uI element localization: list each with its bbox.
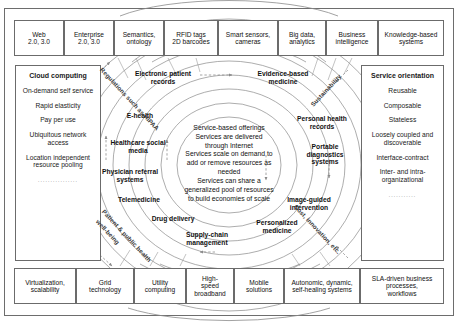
top-row-item-bi[interactable]: Business intelligence xyxy=(326,20,378,56)
arc-label-telemedicine-line1: Telemedicine xyxy=(108,196,170,204)
arc-label-epr-line2: records xyxy=(128,78,198,86)
arc-label-hsm-line1: Healthcare social xyxy=(104,139,172,147)
top-row-item-semantics[interactable]: Semantics, ontology xyxy=(114,20,164,56)
arc-label-phr-line1: Personal health xyxy=(288,115,356,123)
bottom-row-item-virtualization-line1: Virtualization, xyxy=(25,279,64,286)
center-line-6: needed xyxy=(153,168,305,177)
arc-label-ebm-line2: medicine xyxy=(248,78,318,86)
top-row-item-enterprise-line1: Enterprise xyxy=(74,31,104,38)
arc-label-drug-delivery-line1: Drug delivery xyxy=(142,215,204,223)
left-panel-ellipsis: ................ xyxy=(38,177,78,183)
bottom-row-item-sla-line1: SLA-driven business xyxy=(372,275,432,282)
bottom-row-item-grid[interactable]: Grid technology xyxy=(76,268,134,304)
arc-label-epr-line1: Electronic patient xyxy=(128,70,198,78)
arc-label-drug-delivery[interactable]: Drug delivery xyxy=(142,215,204,223)
bottom-row-item-grid-line1: Grid xyxy=(89,279,121,286)
arc-label-hsm-line2: media xyxy=(104,147,172,155)
left-panel-item-pay-per-use: Pay per use xyxy=(20,116,96,124)
left-panel-cloud-computing[interactable]: Cloud computing On-demand self service R… xyxy=(15,65,101,261)
top-row-item-kbs-line1: Knowledge-based xyxy=(385,31,438,38)
bottom-row-item-virtualization[interactable]: Virtualization, scalability xyxy=(14,268,76,304)
top-row-item-kbs[interactable]: Knowledge-based systems xyxy=(378,20,444,56)
right-panel-item-reusable: Reusable xyxy=(366,87,439,95)
left-panel-item-on-demand: On-demand self service xyxy=(20,87,96,95)
arc-label-igi-line2: intervention xyxy=(276,204,342,212)
bottom-row-item-grid-line2: technology xyxy=(89,286,121,293)
arc-label-physician-referral-systems[interactable]: Physician referral systems xyxy=(96,168,164,183)
arc-label-scm-line1: Supply-chain xyxy=(176,231,238,239)
arc-label-prs-line1: Physician referral xyxy=(96,168,164,176)
arc-label-prs-line2: systems xyxy=(96,176,164,184)
right-panel-item-loosely-coupled: Loosely coupled and discoverable xyxy=(366,131,439,146)
right-panel-heading: Service orientation xyxy=(371,72,434,80)
diagram-canvas: Web 2.0, 3.0 Enterprise 2.0, 3.0 Semanti… xyxy=(0,0,459,324)
bottom-row-item-autonomic-line1: Autonomic, dynamic, xyxy=(291,279,352,286)
right-panel-item-composable: Composable xyxy=(366,102,439,110)
center-line-1: Service-based offerings xyxy=(153,124,305,133)
left-panel-heading: Cloud computing xyxy=(29,72,87,80)
center-service-description: Service-based offerings Services are del… xyxy=(153,124,305,203)
arc-label-evidence-based-medicine[interactable]: Evidence-based medicine xyxy=(248,70,318,85)
top-row-item-rfid[interactable]: RFID tags 2D barcodes xyxy=(164,20,218,56)
arc-label-pm-line1: Personalized xyxy=(246,219,308,227)
center-line-5: add or remove resources as xyxy=(153,159,305,168)
arc-label-pds-line2: diagnostics xyxy=(296,151,354,159)
arc-label-pm-line2: medicine xyxy=(246,227,308,235)
right-panel-service-orientation[interactable]: Service orientation Reusable Composable … xyxy=(361,65,444,261)
center-line-3: through Internet xyxy=(153,142,305,151)
top-row-item-bigdata[interactable]: Big data, analytics xyxy=(278,20,326,56)
bottom-row-item-autonomic-line2: self-healing systems xyxy=(291,286,352,293)
bottom-row-item-autonomic[interactable]: Autonomic, dynamic, self-healing systems xyxy=(284,268,360,304)
top-row-item-bigdata-line2: analytics xyxy=(289,38,315,45)
bottom-row-item-utility[interactable]: Utility computing xyxy=(134,268,186,304)
right-panel-ellipsis: ........... xyxy=(389,192,416,198)
bottom-row-item-utility-line1: Utility xyxy=(145,279,175,286)
bottom-row-item-mobile-line1: Mobile xyxy=(246,279,272,286)
top-row-item-bi-line2: intelligence xyxy=(336,38,369,45)
right-panel-item-inter-intra: Inter- and intra-organizational xyxy=(366,168,439,183)
arc-label-healthcare-social-media[interactable]: Healthcare social media xyxy=(104,139,172,154)
top-row-item-rfid-line1: RFID tags xyxy=(172,31,209,38)
arc-top-outer-3 xyxy=(120,1,338,16)
bottom-row-item-sla-line3: workflows xyxy=(372,290,432,297)
bottom-row-item-mobile-line2: solutions xyxy=(246,286,272,293)
arc-label-phr-line2: records xyxy=(288,123,356,131)
top-row-item-web-line2: 2.0, 3.0 xyxy=(28,38,50,45)
bottom-row-item-mobile[interactable]: Mobile solutions xyxy=(234,268,284,304)
top-row-item-bi-line1: Business xyxy=(336,31,369,38)
arc-label-pds-line3: systems xyxy=(296,158,354,166)
arc-label-image-guided-intervention[interactable]: Image-guided intervention xyxy=(276,196,342,211)
top-row-item-sensors[interactable]: Smart sensors, cameras xyxy=(218,20,278,56)
right-panel-item-stateless: Stateless xyxy=(366,116,439,124)
top-row-item-semantics-line1: Semantics, xyxy=(123,31,156,38)
top-row-item-sensors-line1: Smart sensors, xyxy=(226,31,270,38)
bottom-row-item-sla[interactable]: SLA-driven business processes, workflows xyxy=(360,268,444,304)
bottom-row-item-broadband-line3: broadband xyxy=(194,290,226,297)
top-row-item-web-line1: Web xyxy=(28,31,50,38)
center-line-2: Services are delivered xyxy=(153,133,305,142)
bottom-row-item-broadband-line1: High- xyxy=(194,275,226,282)
top-row-item-bigdata-line1: Big data, xyxy=(289,31,315,38)
left-panel-item-network-access: Ubiquitous network access xyxy=(20,131,96,146)
top-row-item-enterprise[interactable]: Enterprise 2.0, 3.0 xyxy=(64,20,114,56)
center-line-7: Services can share a xyxy=(153,177,305,186)
arc-label-pds-line1: Portable xyxy=(296,143,354,151)
arc-label-igi-line1: Image-guided xyxy=(276,196,342,204)
arc-label-personal-health-records[interactable]: Personal health records xyxy=(288,115,356,130)
top-row-item-semantics-line2: ontology xyxy=(123,38,156,45)
arc-label-ebm-line1: Evidence-based xyxy=(248,70,318,78)
arc-label-electronic-patient-records[interactable]: Electronic patient records xyxy=(128,70,198,85)
arc-bottom-outer-3 xyxy=(128,308,330,321)
top-row-item-kbs-line2: systems xyxy=(385,38,438,45)
top-row-item-web[interactable]: Web 2.0, 3.0 xyxy=(14,20,64,56)
arc-label-personalized-medicine[interactable]: Personalized medicine xyxy=(246,219,308,234)
left-panel-item-resource-pooling: Location independent resource pooling xyxy=(20,154,96,169)
bottom-row-item-broadband[interactable]: High- speed broadband xyxy=(186,268,234,304)
top-row-item-enterprise-line2: 2.0, 3.0 xyxy=(74,38,104,45)
arc-label-telemedicine[interactable]: Telemedicine xyxy=(108,196,170,204)
bottom-row-item-utility-line2: computing xyxy=(145,286,175,293)
right-panel-item-interface-contract: Interface-contract xyxy=(366,154,439,162)
arc-label-supply-chain-management[interactable]: Supply-chain management xyxy=(176,231,238,246)
bottom-row-item-virtualization-line2: scalability xyxy=(25,286,64,293)
arc-label-portable-diagnostics-systems[interactable]: Portable diagnostics systems xyxy=(296,143,354,166)
